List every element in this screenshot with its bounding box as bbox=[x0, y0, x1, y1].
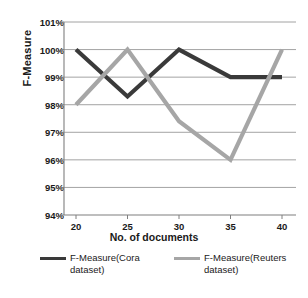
legend-label-reuters-line1: F-Measure(Reuters bbox=[204, 252, 286, 263]
line-chart: F-Measure 94%95%96%97%98%99%100%101% 202… bbox=[0, 0, 308, 298]
x-axis-title: No. of documents bbox=[0, 231, 308, 243]
legend-item-reuters[interactable]: F-Measure(Reuters dataset) bbox=[174, 252, 294, 276]
legend-label-cora-line1: F-Measure(Cora bbox=[70, 252, 140, 263]
legend-label-reuters: F-Measure(Reuters dataset) bbox=[204, 252, 286, 276]
legend-item-cora[interactable]: F-Measure(Cora dataset) bbox=[40, 252, 160, 276]
legend-swatch-cora bbox=[40, 257, 66, 260]
chart-legend: F-Measure(Cora dataset) F-Measure(Reuter… bbox=[40, 252, 302, 276]
legend-label-cora-line2: dataset) bbox=[70, 264, 104, 275]
legend-swatch-reuters bbox=[174, 257, 200, 260]
legend-label-cora: F-Measure(Cora dataset) bbox=[70, 252, 140, 276]
legend-label-reuters-line2: dataset) bbox=[204, 264, 238, 275]
